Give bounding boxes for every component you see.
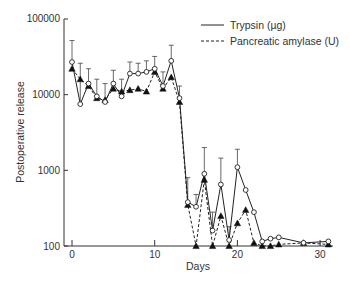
data-point-trypsin — [243, 188, 248, 193]
data-point-trypsin — [152, 66, 157, 71]
data-point-amylase — [234, 220, 240, 226]
data-point-trypsin — [103, 100, 108, 105]
data-point-trypsin — [78, 102, 83, 107]
data-point-trypsin — [70, 60, 75, 65]
data-point-trypsin — [276, 235, 281, 240]
data-point-trypsin — [326, 239, 331, 244]
data-point-trypsin — [210, 228, 215, 233]
data-point-trypsin — [235, 165, 240, 170]
x-tick-label: 0 — [69, 249, 75, 260]
y-axis-title: Postoperative release — [14, 81, 26, 183]
legend: Trypsin (µg) Pancreatic amylase (U) — [201, 19, 339, 47]
data-point-trypsin — [218, 182, 223, 187]
data-point-trypsin — [194, 204, 199, 209]
data-point-trypsin — [119, 94, 124, 99]
y-tick-label: 10000 — [32, 89, 60, 100]
data-point-trypsin — [252, 210, 257, 215]
axes — [64, 19, 333, 246]
legend-label-trypsin: Trypsin (µg) — [230, 19, 286, 31]
data-point-amylase — [218, 213, 224, 219]
data-point-trypsin — [161, 84, 166, 89]
series-line-amylase — [72, 69, 328, 246]
chart: 100100010000100000 0102030 Postoperative… — [0, 0, 350, 285]
data-point-amylase — [69, 66, 75, 72]
data-point-trypsin — [268, 236, 273, 241]
x-axis-title: Days — [186, 260, 210, 272]
data-point-amylase — [201, 177, 207, 183]
data-point-trypsin — [169, 58, 174, 63]
data-point-amylase — [276, 241, 282, 247]
markers — [69, 58, 332, 248]
data-point-trypsin — [111, 81, 116, 86]
data-point-trypsin — [177, 96, 182, 101]
y-tick-label: 100000 — [27, 13, 61, 24]
data-point-amylase — [251, 240, 257, 246]
data-point-trypsin — [227, 238, 232, 243]
data-point-trypsin — [202, 171, 207, 176]
data-point-amylase — [168, 74, 174, 80]
y-ticks: 100100010000100000 — [27, 13, 68, 251]
data-point-amylase — [242, 207, 248, 213]
x-tick-label: 20 — [232, 249, 244, 260]
data-point-trypsin — [136, 71, 141, 76]
x-tick-label: 30 — [315, 249, 327, 260]
data-point-trypsin — [94, 94, 99, 99]
y-tick-label: 1000 — [38, 165, 61, 176]
data-point-trypsin — [144, 69, 149, 74]
x-ticks: 0102030 — [69, 240, 326, 260]
data-point-trypsin — [127, 71, 132, 76]
data-point-amylase — [135, 85, 141, 91]
data-point-amylase — [143, 88, 149, 94]
data-point-trypsin — [86, 81, 91, 86]
series-lines — [72, 61, 328, 246]
legend-label-amylase: Pancreatic amylase (U) — [230, 35, 339, 47]
x-tick-label: 10 — [149, 249, 161, 260]
data-point-trypsin — [185, 200, 190, 205]
data-point-trypsin — [301, 240, 306, 245]
data-point-trypsin — [260, 239, 265, 244]
y-tick-label: 100 — [43, 241, 60, 252]
